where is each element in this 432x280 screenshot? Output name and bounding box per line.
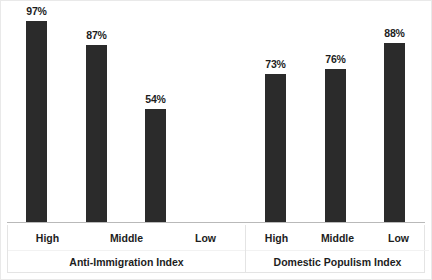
category-label-middle: Middle: [307, 225, 368, 250]
bar-fill: [265, 74, 286, 223]
bar-domestic-populism-high: 73%: [265, 74, 286, 223]
group-domestic-populism: High Middle Low Domestic Populism Index: [245, 225, 429, 272]
category-label-high: High: [8, 225, 87, 250]
bar-domestic-populism-low: 88%: [384, 43, 405, 223]
bar-fill: [325, 69, 346, 223]
bar-value-label: 88%: [384, 27, 405, 39]
category-label-low: Low: [166, 225, 245, 250]
bar-chart: 97% 87% 54% 73% 76% 88%: [0, 0, 432, 280]
category-label-high: High: [246, 225, 307, 250]
category-label-middle: Middle: [87, 225, 166, 250]
category-row: High Middle Low: [8, 225, 245, 250]
x-axis-line: [7, 222, 425, 223]
bar-value-label: 76%: [325, 53, 346, 65]
group-label-row: Domestic Populism Index: [246, 250, 429, 272]
bar-value-label: 97%: [26, 5, 47, 17]
category-axis-table: High Middle Low Anti-Immigration Index H…: [7, 225, 425, 273]
bar-value-label: 54%: [145, 93, 166, 105]
category-label-low: Low: [368, 225, 429, 250]
bar-value-label: 87%: [86, 29, 107, 41]
group-anti-immigration: High Middle Low Anti-Immigration Index: [8, 225, 245, 272]
category-row: High Middle Low: [246, 225, 429, 250]
group-label-row: Anti-Immigration Index: [8, 250, 245, 272]
group-label: Domestic Populism Index: [246, 251, 429, 272]
bar-anti-immigration-low: 54%: [145, 109, 166, 223]
bar-fill: [26, 21, 47, 223]
plot-area: 97% 87% 54% 73% 76% 88%: [1, 1, 431, 223]
bar-domestic-populism-middle: 76%: [325, 69, 346, 223]
bar-anti-immigration-high: 97%: [26, 21, 47, 223]
bar-fill: [86, 45, 107, 223]
bar-value-label: 73%: [265, 58, 286, 70]
group-label: Anti-Immigration Index: [8, 251, 245, 272]
bar-anti-immigration-middle: 87%: [86, 45, 107, 223]
bar-fill: [384, 43, 405, 223]
bar-fill: [145, 109, 166, 223]
